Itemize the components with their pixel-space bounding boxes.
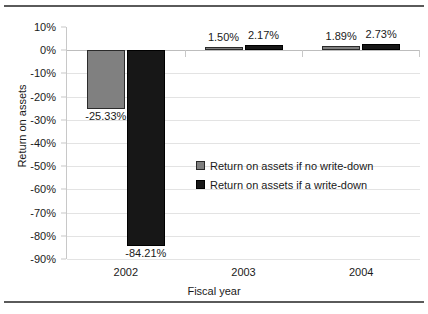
- bar: [362, 44, 400, 50]
- gridline: [67, 259, 420, 260]
- y-axis-tick-label: 0%: [10, 44, 56, 56]
- y-axis-tick-label: -60%: [10, 183, 56, 195]
- x-axis-tick-mark: [185, 50, 186, 57]
- legend-swatch-icon-series-a: [196, 161, 205, 170]
- legend-label: Return on assets if no write-down: [210, 160, 373, 172]
- x-axis-tick-label: 2002: [114, 266, 138, 278]
- y-axis-tick-label: -90%: [10, 253, 56, 265]
- top-divider-rule: [4, 5, 424, 7]
- y-axis-tick-label: -40%: [10, 137, 56, 149]
- y-axis-tick-label: -70%: [10, 207, 56, 219]
- bar: [205, 47, 243, 50]
- bar-value-label: -84.21%: [125, 247, 166, 259]
- x-axis-title: Fiscal year: [0, 285, 428, 297]
- bar: [322, 46, 360, 50]
- x-axis-tick-label: 2004: [349, 266, 373, 278]
- gridline: [67, 143, 420, 144]
- gridline: [67, 236, 420, 237]
- x-axis-tick-mark: [302, 50, 303, 57]
- bar-value-label: -25.33%: [85, 110, 126, 122]
- plot-area: -25.33%-84.21%1.50%2.17%1.89%2.73%: [67, 27, 420, 259]
- y-axis-tick-label: -20%: [10, 91, 56, 103]
- legend-swatch-icon-series-b: [196, 180, 205, 189]
- bar-value-label: 2.73%: [366, 28, 397, 40]
- y-axis-tick-label: -50%: [10, 160, 56, 172]
- y-axis-tick-label: -80%: [10, 230, 56, 242]
- bar-value-label: 1.50%: [208, 31, 239, 43]
- y-axis-tick-label: -30%: [10, 114, 56, 126]
- x-axis-tick-mark: [419, 50, 420, 57]
- x-axis-tick-label: 2003: [231, 266, 255, 278]
- chart-figure: Return on assets 10%0%-10%-20%-30%-40%-5…: [0, 0, 428, 314]
- bar: [87, 50, 125, 109]
- legend-item-write-down: Return on assets if a write-down: [196, 176, 373, 193]
- y-axis-tick-label: -10%: [10, 67, 56, 79]
- legend-item-no-write-down: Return on assets if no write-down: [196, 157, 373, 174]
- gridline: [67, 213, 420, 214]
- y-axis-tick-label: 10%: [10, 21, 56, 33]
- bar-value-label: 1.89%: [326, 30, 357, 42]
- bottom-divider-rule: [4, 301, 424, 303]
- bar: [245, 45, 283, 50]
- bar: [127, 50, 165, 245]
- bar-value-label: 2.17%: [248, 29, 279, 41]
- y-axis-tick-labels: 10%0%-10%-20%-30%-40%-50%-60%-70%-80%-90…: [0, 0, 56, 314]
- legend-label: Return on assets if a write-down: [210, 179, 367, 191]
- chart-legend: Return on assets if no write-down Return…: [196, 157, 373, 195]
